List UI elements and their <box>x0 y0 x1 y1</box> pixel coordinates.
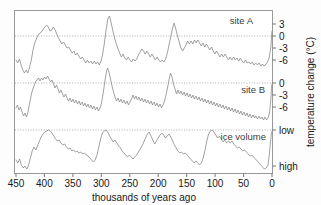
y-tick-label-siteB-1: -3 <box>279 90 288 101</box>
x-tick-label-9: 0 <box>269 178 275 189</box>
y-tick-label-siteA-2: -3 <box>279 43 288 54</box>
series-label-ice-volume: ice volume <box>221 131 266 142</box>
plot-frame <box>15 11 273 174</box>
x-tick-label-1: 400 <box>36 178 53 189</box>
series-label-site-b: site B <box>241 84 265 95</box>
x-tick-label-8: 50 <box>238 178 250 189</box>
x-tick-label-6: 150 <box>178 178 195 189</box>
y-tick-label-siteB-2: -6 <box>279 102 288 113</box>
y-tick-label-siteA-3: -6 <box>279 55 288 66</box>
series-label-site-a: site A <box>230 15 254 26</box>
paleoclimate-timeseries-chart: 450 400 350 300 250 200 150 100 50 0 tho… <box>0 0 321 205</box>
chart-figure: 450 400 350 300 250 200 150 100 50 0 tho… <box>0 0 321 205</box>
x-tick-label-2: 350 <box>65 178 82 189</box>
x-tick-label-7: 100 <box>207 178 224 189</box>
x-tick-label-0: 450 <box>8 178 25 189</box>
x-axis-title: thousands of years ago <box>92 192 196 203</box>
y-axis-title: temperature change (°C) <box>305 37 316 147</box>
x-tick-label-4: 250 <box>121 178 138 189</box>
y-tick-label-siteA-0: 3 <box>279 19 285 30</box>
y-tick-label-siteA-1: 0 <box>279 31 285 42</box>
x-tick-label-3: 300 <box>93 178 110 189</box>
x-tick-label-5: 200 <box>150 178 167 189</box>
y-tick-label-siteB-0: 0 <box>279 78 285 89</box>
y-tick-label-icevolume-high: high <box>279 161 298 172</box>
y-tick-label-icevolume-low: low <box>279 125 295 136</box>
